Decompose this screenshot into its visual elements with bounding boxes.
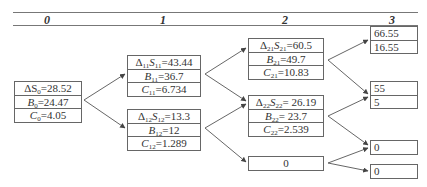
node-21-b: B21=49.7: [249, 53, 323, 67]
node-0-delta-s: ΔS0=28.52: [15, 82, 81, 96]
node-31-value-up: 66.55: [371, 27, 417, 41]
node-21: Δ21S21=60.5 B21=49.7 C21=10.83: [248, 38, 324, 80]
node-22-b: B22= 23.7: [249, 110, 323, 124]
node-12-b: B12=12: [128, 124, 200, 138]
node-32-value-up: 55: [371, 82, 417, 96]
node-34-value: 0: [371, 165, 417, 178]
node-22-c: C22=2.539: [249, 123, 323, 136]
node-12-c: C12=1.289: [128, 137, 200, 150]
node-22: Δ22S22= 26.19 B22= 23.7 C22=2.539: [248, 95, 324, 137]
node-34: 0: [370, 164, 418, 179]
node-31-value-down: 16.55: [371, 41, 417, 54]
node-11: Δ11S11=43.44 B11=36.7 C11=6.734: [127, 55, 201, 97]
node-12: Δ12S12=13.3 B12=12 C12=1.289: [127, 109, 201, 151]
node-11-b: B11=36.7: [128, 70, 200, 84]
node-23: 0: [248, 156, 324, 171]
node-21-delta-s: Δ21S21=60.5: [249, 39, 323, 53]
node-11-delta-s: Δ11S11=43.44: [128, 56, 200, 70]
node-22-delta-s: Δ22S22= 26.19: [249, 96, 323, 110]
node-23-value: 0: [249, 157, 323, 170]
node-0-c: C0=4.05: [15, 109, 81, 122]
node-32: 55 5: [370, 81, 418, 109]
node-21-c: C21=10.83: [249, 66, 323, 79]
node-12-delta-s: Δ12S12=13.3: [128, 110, 200, 124]
node-31: 66.55 16.55: [370, 26, 418, 54]
node-33-value: 0: [371, 141, 417, 154]
node-32-value-down: 5: [371, 96, 417, 109]
node-33: 0: [370, 140, 418, 155]
node-0: ΔS0=28.52 B0=24.47 C0=4.05: [14, 81, 82, 123]
node-11-c: C11=6.734: [128, 83, 200, 96]
node-0-b: B0=24.47: [15, 96, 81, 110]
